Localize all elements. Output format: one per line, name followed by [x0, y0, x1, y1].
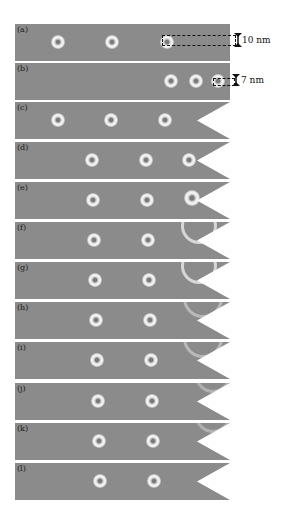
label-10nm: 10 nm: [242, 35, 271, 45]
skyrmion: [158, 113, 172, 127]
panel-label: (c): [17, 103, 28, 112]
panel-label: (j): [17, 384, 26, 393]
panel-d: (d): [15, 142, 230, 179]
panel-h: (h): [15, 302, 230, 339]
panel-label: (b): [17, 64, 28, 73]
skyrmion: [145, 394, 159, 408]
notch-icon: [195, 262, 230, 299]
panel-e: (e): [15, 182, 230, 219]
notch-icon: [195, 142, 230, 179]
dashed-box-10nm: [162, 35, 236, 46]
panel-g: (g): [15, 262, 230, 299]
panel-c: (c): [15, 102, 230, 139]
panel-j: (j): [15, 383, 230, 420]
skyrmion: [143, 313, 157, 327]
dimension-arrow-7nm: [232, 73, 240, 87]
notch-icon: [195, 302, 230, 339]
panel-f: (f): [15, 222, 230, 259]
panel-i: (i): [15, 342, 230, 379]
notch-icon: [195, 182, 230, 219]
notch-icon: [195, 102, 230, 139]
panel-label: (h): [17, 303, 28, 312]
panel-b: (b): [15, 63, 230, 100]
skyrmion: [189, 74, 203, 88]
skyrmion: [92, 434, 106, 448]
skyrmion: [140, 193, 154, 207]
skyrmion: [51, 113, 65, 127]
skyrmion: [93, 474, 107, 488]
panel-k: (k): [15, 423, 230, 460]
skyrmion: [85, 153, 99, 167]
panel-label: (k): [17, 424, 28, 433]
skyrmion: [141, 233, 155, 247]
panel-label: (l): [17, 464, 26, 473]
panel-label: (e): [17, 183, 28, 192]
skyrmion: [104, 113, 118, 127]
skyrmion: [142, 273, 156, 287]
notch-icon: [195, 463, 230, 500]
notch-icon: [195, 342, 230, 379]
skyrmion: [164, 74, 178, 88]
skyrmion: [139, 153, 153, 167]
skyrmion: [105, 35, 119, 49]
skyrmion: [90, 353, 104, 367]
skyrmion: [144, 353, 158, 367]
skyrmion: [89, 313, 103, 327]
notch-icon: [195, 383, 230, 420]
skyrmion: [87, 233, 101, 247]
panel-label: (i): [17, 343, 26, 352]
skyrmion: [86, 193, 100, 207]
skyrmion: [182, 153, 196, 167]
panel-label: (f): [17, 223, 26, 232]
skyrmion: [88, 273, 102, 287]
panel-label: (a): [17, 25, 28, 34]
label-7nm: 7 nm: [241, 75, 264, 85]
panel-label: (d): [17, 143, 28, 152]
panel-label: (g): [17, 263, 28, 272]
panel-l: (l): [15, 463, 230, 500]
notch-icon: [195, 222, 230, 259]
dimension-arrow-10nm: [234, 32, 242, 48]
skyrmion: [146, 434, 160, 448]
skyrmion: [147, 474, 161, 488]
notch-icon: [195, 423, 230, 460]
skyrmion: [51, 35, 65, 49]
skyrmion: [91, 394, 105, 408]
